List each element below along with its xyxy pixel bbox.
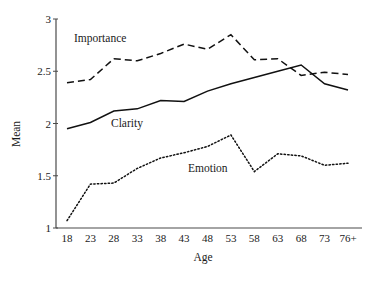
series-line-emotion: [67, 135, 348, 221]
series-label-clarity: Clarity: [111, 118, 143, 130]
x-tick-label: 48: [202, 233, 213, 244]
y-tick-label: 2.5: [20, 66, 51, 77]
x-tick-label: 28: [108, 233, 119, 244]
y-tick-label: 1.5: [20, 170, 51, 181]
chart-container: 11.522.53 18232833384348535863687376+ Me…: [0, 0, 370, 281]
y-axis-title: Mean: [11, 121, 23, 147]
data-series-group: [67, 35, 348, 221]
x-tick-label: 63: [272, 233, 283, 244]
x-tick-label: 33: [132, 233, 143, 244]
axis-lines: [56, 19, 362, 228]
y-tick-label: 1: [20, 223, 51, 234]
x-tick-label: 23: [85, 233, 96, 244]
x-tick-label: 68: [296, 233, 307, 244]
y-tick-label: 3: [20, 14, 51, 25]
series-label-importance: Importance: [74, 33, 126, 45]
x-tick-label: 53: [225, 233, 236, 244]
series-label-emotion: Emotion: [188, 163, 228, 175]
x-axis-title: Age: [193, 252, 212, 264]
y-tick-label: 2: [20, 118, 51, 129]
x-tick-label: 58: [249, 233, 260, 244]
x-tick-label: 76+: [339, 233, 356, 244]
x-tick-label: 18: [62, 233, 73, 244]
x-tick-label: 73: [319, 233, 330, 244]
series-line-clarity: [67, 65, 348, 129]
x-tick-label: 43: [179, 233, 190, 244]
x-tick-label: 38: [155, 233, 166, 244]
